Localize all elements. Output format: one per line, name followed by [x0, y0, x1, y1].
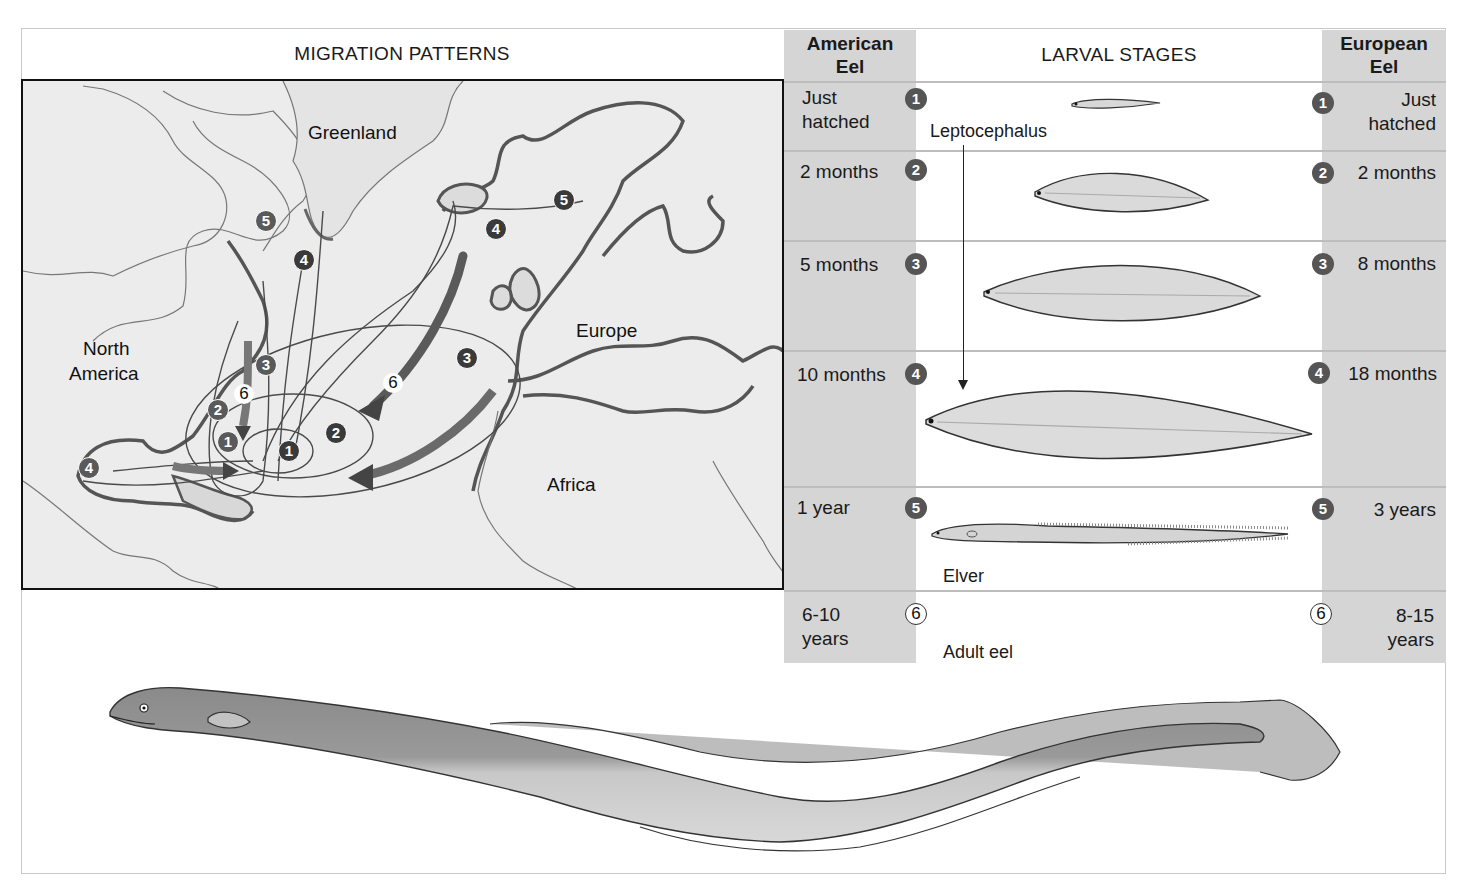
row-divider: [784, 150, 1446, 152]
larva-stage-1-illustration: [1068, 95, 1163, 113]
map-illustration: [23, 81, 784, 590]
european-stage-badge-5: 5: [1312, 498, 1334, 520]
european-age-line2: hatched: [1340, 112, 1436, 136]
label-africa: Africa: [547, 473, 596, 497]
migration-title: MIGRATION PATTERNS: [22, 30, 782, 78]
european-stage-badge-6: 6: [1310, 603, 1332, 625]
european-stage-badge-2: 2: [1312, 162, 1334, 184]
american-marker-4: 4: [78, 457, 100, 479]
american-age-line2: hatched: [802, 110, 870, 134]
american-marker-6: 6: [234, 384, 254, 404]
european-stage-badge-3: 3: [1312, 253, 1334, 275]
american-marker-5: 5: [255, 210, 277, 232]
european-marker-1: 1: [278, 440, 300, 462]
leptocephalus-pointer-line: [963, 145, 964, 385]
european-age-row6: 8-15 years: [1340, 604, 1434, 652]
migration-map: Greenland North America Europe Africa 1 …: [21, 79, 784, 590]
label-north-america-line2: America: [69, 362, 139, 386]
american-age-line2: years: [802, 627, 848, 651]
american-age-row1: Just hatched: [802, 86, 870, 134]
european-age-row4: 18 months: [1334, 362, 1437, 386]
larva-stage-4-illustration: [922, 380, 1316, 470]
row-divider: [784, 350, 1446, 352]
european-marker-2: 2: [325, 422, 347, 444]
label-europe: Europe: [576, 319, 637, 343]
european-age-line2: years: [1340, 628, 1434, 652]
european-marker-5: 5: [553, 189, 575, 211]
european-stage-badge-1: 1: [1312, 92, 1334, 114]
american-marker-4b: 4: [293, 249, 315, 271]
american-header-line2: Eel: [784, 55, 916, 78]
european-age-row2: 2 months: [1340, 161, 1436, 185]
american-stage-badge-1: 1: [905, 88, 927, 110]
european-age-line1: Just: [1340, 88, 1436, 112]
american-stage-badge-6: 6: [905, 603, 927, 625]
caption-elver: Elver: [943, 566, 984, 587]
american-marker-1: 1: [217, 431, 239, 453]
adult-eel-illustration: [100, 672, 1360, 862]
american-stage-badge-5: 5: [905, 497, 927, 519]
american-eel-header: American Eel: [784, 32, 916, 78]
row-divider: [784, 590, 1446, 592]
row-divider: [784, 81, 1446, 83]
european-marker-6: 6: [383, 373, 403, 393]
larval-stages-title: LARVAL STAGES: [916, 30, 1322, 80]
american-age-row3: 5 months: [800, 253, 878, 277]
american-age-line1: 6-10: [802, 603, 848, 627]
american-age-row6: 6-10 years: [802, 603, 848, 651]
american-header-line1: American: [784, 32, 916, 55]
american-age-line1: Just: [802, 86, 870, 110]
elver-illustration: [928, 516, 1308, 552]
american-marker-2: 2: [207, 399, 229, 421]
row-divider: [784, 240, 1446, 242]
european-age-line1: 8-15: [1340, 604, 1434, 628]
american-age-row2: 2 months: [800, 160, 878, 184]
larva-stage-3-illustration: [980, 258, 1264, 328]
european-marker-4: 4: [485, 218, 507, 240]
european-eel-header: European Eel: [1322, 32, 1446, 78]
larva-stage-2-illustration: [1030, 166, 1210, 218]
european-header-line1: European: [1322, 32, 1446, 55]
row-divider: [784, 486, 1446, 488]
caption-adult-eel: Adult eel: [943, 642, 1013, 663]
label-greenland: Greenland: [308, 121, 397, 145]
european-age-row5: 3 years: [1340, 498, 1436, 522]
european-age-row3: 8 months: [1340, 252, 1436, 276]
american-age-row4: 10 months: [797, 363, 886, 387]
european-marker-3: 3: [456, 347, 478, 369]
american-stage-badge-3: 3: [905, 253, 927, 275]
american-marker-3: 3: [255, 354, 277, 376]
label-north-america-line1: North: [83, 337, 129, 361]
european-age-row1: Just hatched: [1340, 88, 1436, 136]
caption-leptocephalus: Leptocephalus: [930, 121, 1047, 142]
european-header-line2: Eel: [1322, 55, 1446, 78]
american-age-row5: 1 year: [797, 496, 850, 520]
american-stage-badge-2: 2: [905, 159, 927, 181]
